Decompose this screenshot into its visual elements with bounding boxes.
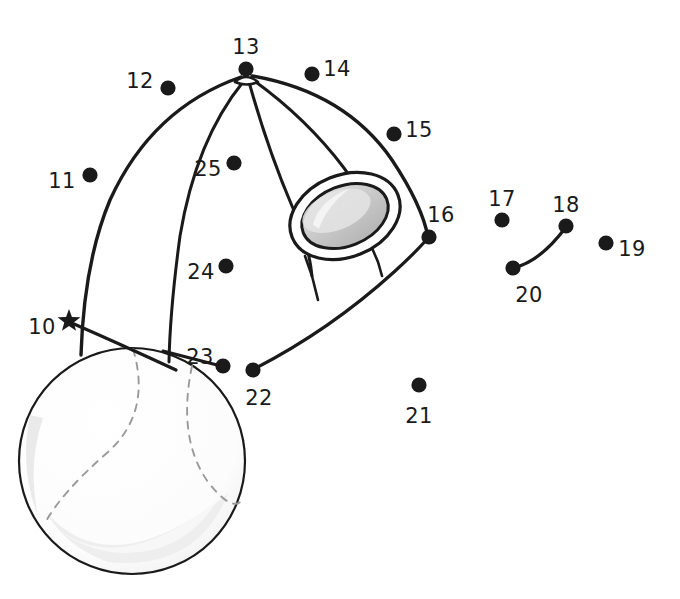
dot-label-12: 12 — [126, 69, 154, 93]
dot-13[interactable] — [238, 61, 253, 76]
segment-20-to-18 — [513, 227, 566, 268]
dot-19[interactable] — [598, 235, 613, 250]
dot-22[interactable] — [245, 362, 260, 377]
dot-15[interactable] — [386, 126, 401, 141]
baseball-cap-group — [81, 76, 428, 369]
cap-panel-seam-1 — [169, 82, 243, 362]
dot-label-18: 18 — [552, 193, 580, 217]
cap-logo-patch-group — [277, 157, 413, 276]
dot-label-19: 19 — [618, 237, 646, 261]
dot-label-24: 24 — [187, 260, 215, 284]
baseball-group — [19, 348, 245, 574]
puzzle-artwork: 10111213141516171819202122232425 — [0, 0, 680, 599]
dot-label-13: 13 — [232, 35, 260, 59]
dot-20[interactable] — [505, 260, 520, 275]
dot-label-17: 17 — [488, 187, 516, 211]
start-star-dot-10[interactable] — [58, 309, 81, 331]
dot-label-16: 16 — [427, 203, 455, 227]
dot-16[interactable] — [421, 229, 436, 244]
baseball-body — [19, 348, 245, 574]
cap-panel-seam-lower-right — [372, 248, 382, 276]
dot-label-10: 10 — [28, 315, 56, 339]
dot-12[interactable] — [160, 80, 175, 95]
connect-the-dots-puzzle: 10111213141516171819202122232425 — [0, 0, 680, 599]
dot-label-22: 22 — [245, 386, 273, 410]
dot-label-20: 20 — [515, 283, 543, 307]
dot-11[interactable] — [82, 167, 97, 182]
dot-label-25: 25 — [194, 157, 222, 181]
dot-label-11: 11 — [48, 169, 76, 193]
dot-25[interactable] — [226, 155, 241, 170]
dot-18[interactable] — [558, 218, 573, 233]
dot-label-21: 21 — [405, 404, 433, 428]
dot-14[interactable] — [304, 66, 319, 81]
cap-crown-button — [235, 77, 258, 85]
dot-label-23: 23 — [186, 345, 214, 369]
dot-17[interactable] — [494, 212, 509, 227]
dot-label-15: 15 — [405, 118, 433, 142]
dot-24[interactable] — [218, 258, 233, 273]
dot-21[interactable] — [411, 377, 426, 392]
dot-23[interactable] — [215, 358, 230, 373]
dot-label-14: 14 — [323, 57, 351, 81]
